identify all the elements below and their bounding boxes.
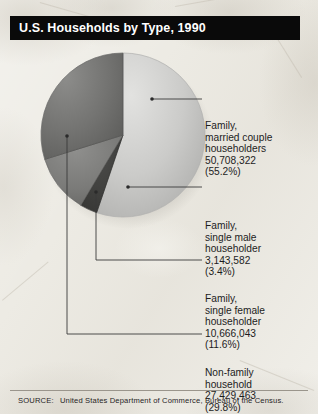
callout-percent: (3.4%)	[205, 266, 261, 278]
callout-line: Family,	[205, 293, 265, 305]
leader-anchor-single-female	[94, 190, 98, 194]
page-title: U.S. Households by Type, 1990	[10, 21, 206, 35]
chart-figure: U.S. Households by Type, 1990	[0, 0, 318, 414]
source-note: SOURCE: United States Department of Comm…	[18, 396, 284, 405]
callout-line: Family,	[205, 220, 261, 232]
callout-line: householder	[205, 316, 265, 328]
callout-percent: (55.2%)	[205, 166, 272, 178]
leader-anchor-married-couple	[150, 97, 154, 101]
callout-value: 3,143,582	[205, 255, 261, 267]
source-text: United States Department of Commerce, Bu…	[60, 396, 284, 405]
callout-line: Family,	[205, 120, 272, 132]
paper-vein	[175, 0, 264, 7]
callout-single-male: Family, single male householder 3,143,58…	[205, 220, 261, 278]
callout-line: householders	[205, 143, 272, 155]
callout-line: single male	[205, 232, 261, 244]
pie-chart-svg	[0, 44, 318, 384]
callout-value: 10,666,043	[205, 328, 265, 340]
source-label: SOURCE:	[18, 396, 54, 405]
pie-chart: Family, married couple householders 50,7…	[0, 44, 318, 384]
callout-married-couple: Family, married couple householders 50,7…	[205, 120, 272, 178]
callout-single-female: Family, single female householder 10,666…	[205, 293, 265, 351]
callout-line: Non-family	[205, 367, 256, 379]
chart-title-bar: U.S. Households by Type, 1990	[10, 16, 300, 40]
callout-line: married couple	[205, 132, 272, 144]
leader-anchor-nonfamily	[65, 134, 69, 138]
footer-divider	[10, 390, 308, 391]
callout-percent: (11.6%)	[205, 339, 265, 351]
leader-anchor-single-male	[126, 185, 130, 189]
callout-line: household	[205, 379, 256, 391]
callout-line: householder	[205, 243, 261, 255]
callout-line: single female	[205, 305, 265, 317]
callout-value: 50,708,322	[205, 155, 272, 167]
